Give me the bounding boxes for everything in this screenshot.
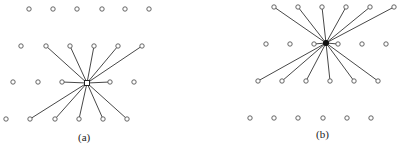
edge-line	[62, 82, 87, 83]
lattice-node	[280, 79, 284, 83]
edge-line	[322, 7, 326, 43]
panel-b-caption: (b)	[316, 128, 329, 140]
lattice-node	[75, 7, 79, 11]
lattice-node	[60, 80, 64, 84]
lattice-node	[360, 42, 364, 46]
lattice-node	[344, 5, 348, 9]
lattice-node	[11, 80, 15, 84]
lattice-node	[116, 44, 120, 48]
edge-line	[326, 7, 370, 43]
edge-line	[87, 82, 110, 83]
lattice-node	[320, 5, 324, 9]
lattice-node	[44, 44, 48, 48]
lattice-node	[336, 42, 340, 46]
center-node	[323, 40, 328, 45]
lattice-node	[384, 42, 388, 46]
lattice-node	[352, 79, 356, 83]
lattice-node	[108, 80, 112, 84]
edge-line	[274, 7, 326, 43]
lattice-node	[92, 44, 96, 48]
lattice-node	[368, 5, 372, 9]
lattice-node	[312, 42, 316, 46]
edge-line	[70, 46, 87, 83]
lattice-node	[296, 5, 300, 9]
panel-a-graph	[4, 7, 151, 121]
center-node	[85, 81, 90, 86]
edge-line	[326, 43, 354, 81]
lattice-node	[264, 42, 268, 46]
lattice-node	[77, 117, 81, 121]
edge-line	[79, 83, 87, 119]
lattice-node	[68, 44, 72, 48]
edge-line	[87, 83, 103, 119]
edge-line	[55, 83, 87, 119]
lattice-node	[288, 42, 292, 46]
lattice-node	[392, 5, 396, 9]
edge-line	[326, 43, 330, 81]
lattice-node	[248, 116, 252, 120]
lattice-node	[256, 79, 260, 83]
edge-line	[46, 46, 87, 83]
lattice-node	[101, 117, 105, 121]
panel-a-caption: (a)	[78, 131, 90, 143]
lattice-node	[123, 7, 127, 11]
lattice-node	[132, 80, 136, 84]
lattice-node	[345, 116, 349, 120]
edge-line	[87, 46, 142, 83]
lattice-node	[100, 7, 104, 11]
edge-line	[87, 46, 118, 83]
lattice-node	[376, 79, 380, 83]
edge-line	[30, 83, 87, 119]
lattice-node	[321, 116, 325, 120]
lattice-node	[272, 116, 276, 120]
lattice-node	[36, 80, 40, 84]
lattice-node	[272, 5, 276, 9]
edge-line	[87, 83, 127, 119]
edge-line	[326, 43, 378, 81]
lattice-node	[328, 79, 332, 83]
lattice-node	[53, 117, 57, 121]
panel-b-graph	[248, 5, 396, 120]
lattice-node	[27, 7, 31, 11]
edge-line	[87, 46, 94, 83]
lattice-diagram	[0, 0, 397, 150]
edge-line	[282, 43, 326, 81]
lattice-node	[19, 44, 23, 48]
lattice-node	[4, 117, 8, 121]
lattice-node	[28, 117, 32, 121]
lattice-node	[296, 116, 300, 120]
lattice-node	[147, 7, 151, 11]
lattice-node	[125, 117, 129, 121]
lattice-node	[369, 116, 373, 120]
lattice-node	[304, 79, 308, 83]
edge-line	[298, 7, 326, 43]
lattice-node	[140, 44, 144, 48]
lattice-node	[51, 7, 55, 11]
